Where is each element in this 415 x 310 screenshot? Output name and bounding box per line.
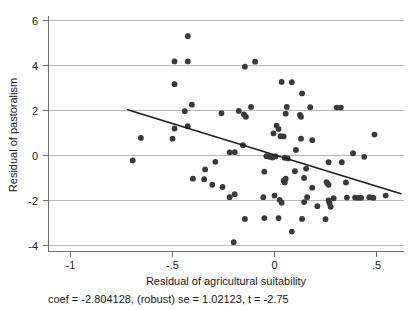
scatter-point: [201, 176, 207, 182]
scatter-point: [236, 108, 242, 114]
scatter-point: [212, 159, 218, 165]
scatter-point: [289, 79, 295, 85]
y-ticklabel-neg4: -4: [28, 240, 38, 252]
scatter-point: [219, 110, 225, 116]
scatter-point: [190, 176, 196, 182]
scatter-point: [138, 135, 144, 141]
scatter-point: [172, 81, 178, 87]
scatter-point: [202, 167, 208, 173]
scatter-point: [182, 108, 188, 114]
scatter-point: [282, 180, 288, 186]
scatter-point: [252, 59, 258, 65]
scatter-point: [279, 200, 285, 206]
x-ticklabel-0: 0: [271, 259, 277, 271]
scatter-point: [283, 111, 289, 117]
y-ticklabel-0: 0: [32, 150, 38, 162]
scatter-point: [350, 150, 356, 156]
scatter-point: [170, 136, 176, 142]
y-ticklabel-2: 2: [32, 105, 38, 117]
y-axis-title: Residual of pastoralism: [7, 78, 19, 192]
scatter-point: [261, 169, 267, 175]
scatter-point: [227, 149, 233, 155]
scatter-point: [343, 180, 349, 186]
scatter-point: [372, 132, 378, 138]
scatter-point: [281, 133, 287, 139]
scatter-point: [261, 215, 267, 221]
scatter-point: [304, 194, 310, 200]
scatter-point: [289, 229, 295, 235]
scatter-point: [331, 195, 337, 201]
regression-fit-line: [128, 110, 401, 194]
scatter-point: [323, 216, 329, 222]
scatter-point: [172, 126, 178, 132]
axes: [43, 16, 404, 257]
scatter-point: [220, 184, 226, 190]
scatter-point: [328, 204, 334, 210]
scatter-point: [231, 239, 237, 245]
regression-annotation: coef = -2.804128, (robust) se = 1.02123,…: [48, 293, 289, 305]
x-axis-title: Residual of agricultural suitability: [146, 275, 307, 287]
scatter-point: [232, 149, 238, 155]
scatter-point: [326, 182, 332, 188]
scatter-point: [248, 104, 254, 110]
x-ticklabel-neg1: -1: [66, 259, 76, 271]
scatter-point: [298, 114, 304, 120]
scatter-point: [271, 131, 277, 137]
scatter-point: [189, 102, 195, 108]
scatter-point: [303, 166, 309, 172]
scatter-point: [309, 137, 315, 143]
scatter-point: [339, 159, 345, 165]
scatter-point: [301, 175, 307, 181]
scatter-point: [227, 194, 233, 200]
gridlines: [48, 21, 404, 246]
scatter-point: [293, 147, 299, 153]
scatter-point: [371, 195, 377, 201]
scatter-point: [314, 203, 320, 209]
y-ticklabel-neg2: -2: [28, 195, 38, 207]
scatter-point: [309, 185, 315, 191]
scatter-point: [338, 105, 344, 111]
scatter-point: [185, 59, 191, 65]
scatter-point: [301, 199, 307, 205]
scatter-point: [299, 91, 305, 97]
scatter-point: [307, 104, 313, 110]
x-ticklabel-half: .5: [372, 259, 381, 271]
scatter-point: [276, 126, 282, 132]
scatter-point: [292, 168, 298, 174]
scatter-point: [279, 79, 285, 85]
x-tick-labels: -1 -.5 0 .5: [66, 259, 381, 271]
scatter-point: [185, 33, 191, 39]
scatter-point: [130, 158, 136, 164]
scatter-point: [272, 193, 278, 199]
y-tick-labels: 6 4 2 0 -2 -4: [28, 15, 38, 252]
scatter-point: [172, 59, 178, 65]
added-variable-plot-figure: 6 4 2 0 -2 -4 -1 -.5 0 .5 Residual of ag…: [0, 0, 415, 310]
scatter-point: [276, 215, 282, 221]
scatter-point: [326, 159, 332, 165]
scatter-point: [383, 193, 389, 199]
scatter-point: [243, 114, 249, 120]
y-ticklabel-4: 4: [32, 60, 38, 72]
scatter-point: [358, 195, 364, 201]
scatter-point: [232, 191, 238, 197]
x-ticklabel-neghalf: -.5: [166, 259, 179, 271]
scatter-point: [242, 216, 248, 222]
scatter-point: [298, 136, 304, 142]
scatter-point: [361, 154, 367, 160]
scatter-point: [242, 64, 248, 70]
scatter-point: [344, 195, 350, 201]
y-ticklabel-6: 6: [32, 15, 38, 27]
scatter-point: [299, 216, 305, 222]
scatter-point: [209, 182, 215, 188]
scatter-plot-canvas: 6 4 2 0 -2 -4 -1 -.5 0 .5 Residual of ag…: [0, 0, 415, 310]
scatter-point: [284, 104, 290, 110]
scatter-point: [260, 194, 266, 200]
